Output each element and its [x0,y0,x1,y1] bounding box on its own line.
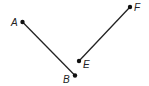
point-b [73,73,77,77]
point-f [128,5,132,9]
segment-ab [23,22,76,76]
point-e [77,59,81,63]
diagram-canvas: A B E F [0,0,149,86]
segment-ef [79,7,130,61]
label-f: F [134,2,141,13]
label-e: E [83,59,90,70]
point-a [20,20,24,24]
label-b: B [63,74,70,85]
label-a: A [10,17,18,28]
